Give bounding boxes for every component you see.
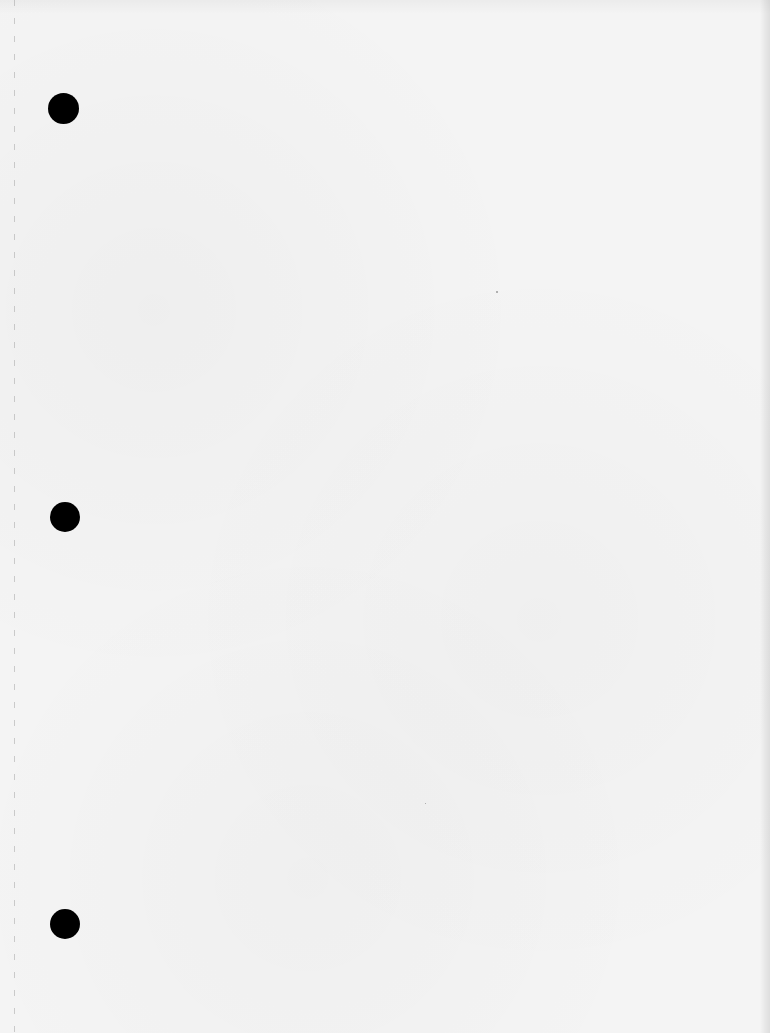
blank-paper-page — [0, 0, 770, 1033]
punch-hole-middle — [50, 502, 80, 532]
dashed-margin-line — [14, 0, 15, 1033]
punch-hole-top — [48, 93, 79, 124]
scan-shadow-top — [0, 0, 770, 14]
paper-speck — [496, 291, 498, 293]
paper-speck — [425, 803, 426, 804]
punch-hole-bottom — [50, 909, 80, 939]
